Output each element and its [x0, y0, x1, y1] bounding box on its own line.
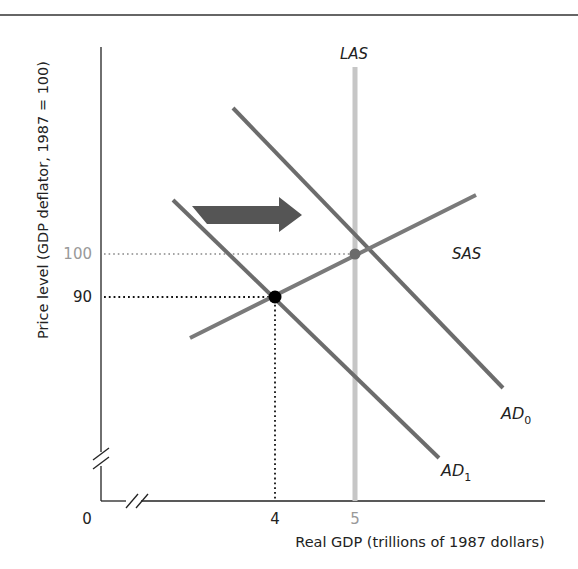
- y-tick-100: 100: [63, 245, 92, 263]
- ad1-label: AD1: [440, 461, 471, 484]
- equilibrium-point-new: [269, 291, 282, 304]
- equilibrium-point-initial: [350, 249, 361, 260]
- y-tick-90: 90: [73, 288, 92, 306]
- origin-label: 0: [82, 510, 92, 528]
- x-tick-5: 5: [350, 510, 360, 528]
- guide-lines: [104, 254, 352, 499]
- las-label: LAS: [340, 45, 369, 63]
- y-axis-title: Price level (GDP deflator, 1987 = 100): [35, 61, 51, 339]
- shift-arrow-icon: [192, 197, 302, 232]
- axes: [93, 47, 545, 508]
- ad0-label: AD0: [500, 404, 531, 427]
- x-axis-title: Real GDP (trillions of 1987 dollars): [295, 534, 545, 550]
- sas-label: SAS: [452, 245, 482, 263]
- x-tick-4: 4: [270, 510, 280, 528]
- ad1-curve: [173, 200, 439, 458]
- chart-canvas: LAS SAS AD0 AD1 100 90 4 5 0 Real GDP (t…: [0, 0, 578, 569]
- x-axis-break-icon: [126, 494, 138, 508]
